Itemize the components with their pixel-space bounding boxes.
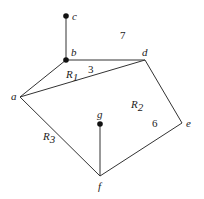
edge-a-d <box>20 60 145 97</box>
vertex-b-dot <box>63 57 69 63</box>
vertex-label-e: e <box>186 117 191 129</box>
degree-label-r2: 6 <box>152 117 158 129</box>
vertex-c-dot <box>63 13 69 19</box>
vertex-label-a: a <box>11 90 17 102</box>
edge-e-f <box>100 123 182 176</box>
vertex-label-f: f <box>98 180 103 192</box>
region-label-r2: R2 <box>130 98 144 113</box>
degree-label-outer: 7 <box>120 29 126 41</box>
edge-a-f <box>20 97 100 176</box>
edge-a-b <box>20 60 66 97</box>
region-label-r3: R3 <box>42 130 56 145</box>
degree-label-r1: 3 <box>88 63 94 75</box>
vertex-g-dot <box>97 121 103 127</box>
vertex-label-b: b <box>71 46 77 58</box>
edge-d-e <box>145 60 182 123</box>
vertex-label-d: d <box>142 46 148 58</box>
vertex-label-c: c <box>72 10 77 22</box>
vertex-label-g: g <box>97 108 103 120</box>
planar-graph-diagram: c b d a e g f R1 R2 R3 7 3 6 <box>0 0 204 199</box>
region-label-r1: R1 <box>65 68 78 83</box>
